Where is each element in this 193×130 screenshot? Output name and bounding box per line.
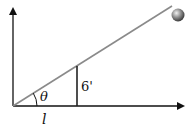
angle-label: θ xyxy=(40,89,48,104)
ball-icon xyxy=(172,9,185,22)
base-length-label: l xyxy=(42,111,46,127)
post-height-label: 6' xyxy=(81,79,93,94)
incline-diagram: θ 6' l xyxy=(0,0,193,130)
angle-arc xyxy=(33,93,37,106)
